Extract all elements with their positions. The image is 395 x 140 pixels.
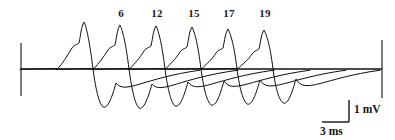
trace-canvas xyxy=(0,0,395,140)
sweep-number-label-17: 17 xyxy=(223,8,234,19)
sweep-trace-6 xyxy=(200,30,380,103)
sweep-number-label-6: 6 xyxy=(118,8,124,19)
electrophysiology-figure: 612151719 1 mV 3 ms xyxy=(0,0,395,140)
sweep-trace-2 xyxy=(56,25,238,108)
sweep-trace-4 xyxy=(128,27,310,105)
sweep-trace-3 xyxy=(92,26,274,106)
scale-bar-time-label: 3 ms xyxy=(320,126,343,138)
sweep-trace-5 xyxy=(164,29,346,104)
sweep-number-label-19: 19 xyxy=(259,8,270,19)
scale-bar-voltage-label: 1 mV xyxy=(354,104,381,116)
sweep-number-label-12: 12 xyxy=(151,8,162,19)
sweep-number-label-15: 15 xyxy=(188,8,199,19)
sweep-traces xyxy=(20,22,380,108)
sweep-trace-1 xyxy=(20,22,200,107)
scale-bar xyxy=(322,100,349,122)
